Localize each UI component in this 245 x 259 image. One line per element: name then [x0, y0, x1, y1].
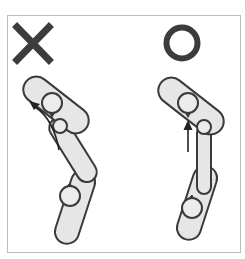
middle-segment [197, 126, 211, 194]
elbow-joint [197, 120, 211, 134]
elbow-joint [53, 119, 67, 133]
hip-joint [60, 186, 80, 206]
diagram-canvas [0, 0, 245, 259]
shoulder-joint [178, 93, 198, 113]
shoulder-joint [42, 93, 62, 113]
hip-joint [182, 198, 202, 218]
